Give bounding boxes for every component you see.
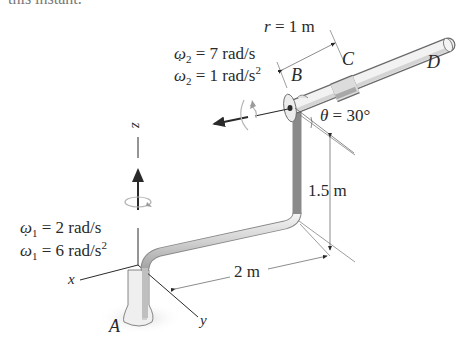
x-axis-label: x [68,272,75,287]
pedestal-a [124,270,154,326]
length-dim-line-right [268,256,327,269]
height-dimension-label: 1.5 m [308,182,347,199]
omega2-axis-arrow [255,109,288,116]
point-b-label: B [291,66,302,84]
point-d-label: D [427,53,440,71]
point-a-label: A [109,317,120,335]
omega1-label: ω1 = 2 rad/s [20,219,101,236]
omega2-rotation-arc [241,100,248,130]
theta-label: θ = 30° [320,107,370,124]
length-dim-line-left [175,277,230,289]
omega2-dot-label: ω2 = 1 rad/s2 [174,67,261,84]
z-axis-label: z [129,123,144,129]
point-c-label: C [342,50,354,68]
y-axis-label: y [200,313,207,328]
length-dimension-label: 2 m [234,263,260,280]
radius-label: r = 1 m [264,18,315,35]
r-dimension-ext-b [277,62,287,88]
length-dim-ext [300,224,330,256]
r-dimension-line [282,43,335,70]
theta-arc [311,117,312,128]
omega1-dot-label: ω1 = 6 rad/s2 [20,242,107,259]
diagram-canvas: this instant. [0,0,460,347]
omega2-label: ω2 = 7 rad/s [174,45,255,62]
height-dim-ext-bottom [299,221,355,262]
